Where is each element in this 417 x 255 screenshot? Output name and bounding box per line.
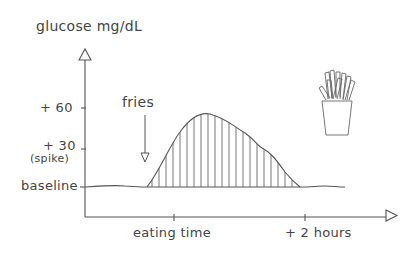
fries-arrow bbox=[141, 115, 149, 162]
tick-label-baseline: baseline bbox=[21, 178, 78, 193]
fries-annotation: fries bbox=[122, 94, 154, 110]
tick-label-30: + 30 bbox=[43, 138, 76, 153]
french-fries-icon bbox=[319, 70, 355, 135]
glucose-curve bbox=[86, 114, 345, 187]
x-axis bbox=[85, 210, 397, 221]
area-hatching bbox=[152, 110, 292, 188]
x-tick-2-hours: + 2 hours bbox=[285, 225, 352, 240]
x-tick-eating-time: eating time bbox=[133, 225, 211, 240]
tick-label-60: + 60 bbox=[40, 100, 73, 115]
y-axis bbox=[79, 49, 91, 217]
y-axis-title: glucose mg/dL bbox=[36, 18, 142, 34]
chart-canvas bbox=[0, 0, 417, 255]
tick-label-spike: (spike) bbox=[30, 152, 69, 165]
